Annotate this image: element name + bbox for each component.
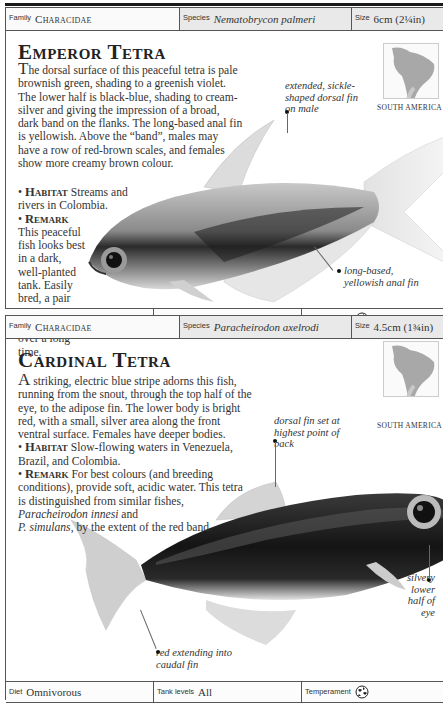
species-value: Nematobrycon palmeri [214, 13, 316, 25]
map-caption: SOUTH AMERICA [377, 421, 442, 430]
annotation-leader [429, 545, 430, 579]
remark-label: Remark [25, 467, 69, 481]
size-cell: Size 4.5cm (1¾in) [352, 316, 443, 338]
remark-italic-1: Paracheirodon innesi [18, 508, 118, 521]
species-value: Paracheirodon axelrodi [214, 321, 319, 333]
annotation-dorsal-fin: extended, sickle-shaped dorsal fin on ma… [285, 80, 360, 115]
species-entry-cardinal-tetra: Family Characidae Species Paracheirodon … [5, 315, 443, 700]
habitat-label: Habitat [25, 440, 68, 454]
temperament-cell: Temperament [302, 682, 443, 702]
dropcap: A [18, 370, 30, 389]
entry-header: Family Characidae Species Paracheirodon … [6, 315, 443, 339]
family-cell: Family Characidae [6, 8, 180, 30]
species-label: Species [183, 13, 210, 22]
species-description: A striking, electric blue stripe adorns … [18, 373, 253, 535]
annotation-dot [156, 650, 160, 654]
south-america-map-icon [384, 342, 439, 397]
diet-cell: Diet Omnivorous [6, 682, 154, 702]
range-map [383, 341, 439, 397]
family-value: Characidae [35, 321, 91, 333]
range-map [383, 43, 439, 99]
south-america-map-icon [384, 44, 439, 99]
remark-italic-2: P. simulans [18, 521, 71, 534]
family-cell: Family Characidae [6, 316, 180, 338]
family-value: Characidae [35, 13, 91, 25]
annotation-dorsal-fin: dorsal fin set at highest point of back [274, 415, 349, 450]
family-label: Family [9, 13, 31, 22]
annotation-dot [337, 269, 341, 273]
map-caption: SOUTH AMERICA [377, 103, 442, 112]
size-value: 4.5cm (1¾in) [374, 321, 434, 333]
size-value: 6cm (2¼in) [374, 13, 425, 25]
size-label: Size [355, 13, 370, 22]
annotation-leader [287, 113, 288, 133]
tank-levels-value: All [198, 686, 212, 698]
entry-header: Family Characidae Species Nematobrycon p… [6, 7, 443, 31]
habitat-label: Habitat [25, 185, 68, 199]
tank-levels-cell: Tank levels All [154, 682, 302, 702]
remark-text-2: and [121, 508, 138, 521]
temperament-label: Temperament [305, 687, 351, 696]
description-body: he dorsal surface of this peaceful tetra… [18, 64, 242, 170]
diet-value: Omnivorous [26, 686, 81, 698]
page-top-rule [5, 3, 443, 6]
species-label: Species [183, 321, 210, 330]
annotation-caudal-fin: red extending into caudal fin [156, 647, 236, 670]
tank-levels-label: Tank levels [157, 687, 194, 696]
remark-label: Remark [25, 212, 69, 226]
size-cell: Size 6cm (2¼in) [352, 8, 443, 30]
species-description: The dorsal surface of this peaceful tetr… [18, 62, 243, 170]
remark-text-3: , by the extent of the red band. [71, 521, 212, 534]
species-entry-emperor-tetra: Family Characidae Species Nematobrycon p… [5, 7, 443, 309]
species-cell: Species Paracheirodon axelrodi [180, 316, 352, 338]
annotation-anal-fin: long-based, yellowish anal fin [344, 265, 419, 288]
size-label: Size [355, 321, 370, 330]
dropcap: T [18, 59, 28, 78]
peaceful-fish-icon [355, 685, 369, 699]
description-body: striking, electric blue stripe adorns th… [18, 375, 252, 441]
species-cell: Species Nematobrycon palmeri [180, 8, 352, 30]
entry-footer: Diet Omnivorous Tank levels All Temperam… [6, 681, 443, 703]
annotation-leader [275, 442, 276, 487]
family-label: Family [9, 321, 31, 330]
diet-label: Diet [9, 687, 22, 696]
species-title: Cardinal Tetra [18, 348, 171, 373]
